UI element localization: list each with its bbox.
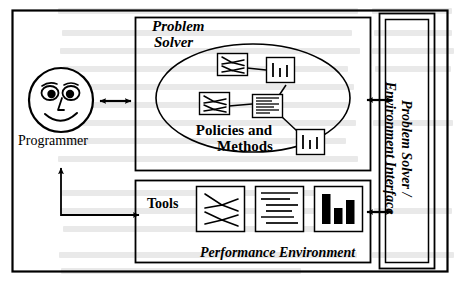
tools-label: Tools bbox=[147, 196, 178, 211]
policies-methods-label: Policies and Methods bbox=[176, 122, 292, 154]
problem-solver-title: Problem Solver bbox=[152, 18, 205, 50]
ps-node-tree-3 bbox=[200, 93, 230, 115]
edge-n1-n2 bbox=[247, 68, 266, 70]
ps-node-chart-2 bbox=[267, 58, 295, 83]
tool-bar-chart-icon-box[interactable] bbox=[315, 187, 363, 232]
interface-panel-label: Problem Solver / Environment Interface bbox=[382, 28, 414, 268]
tool-tree-icon-box[interactable] bbox=[197, 187, 245, 232]
performance-environment-label: Performance Environment bbox=[200, 245, 355, 260]
ps-node-tree-1 bbox=[218, 54, 248, 76]
ps-node-chart-5 bbox=[297, 130, 325, 155]
tool-document-icon-box[interactable] bbox=[256, 187, 304, 232]
ps-node-document-4 bbox=[253, 95, 283, 118]
edge-n3-n4 bbox=[229, 104, 252, 106]
diagram-canvas: Problem Solver Policies and Methods Tool… bbox=[0, 0, 460, 282]
programmer-label: Programmer bbox=[18, 133, 88, 148]
programmer-avatar bbox=[29, 68, 93, 132]
connector-programmer-tools-elbow bbox=[61, 168, 139, 215]
